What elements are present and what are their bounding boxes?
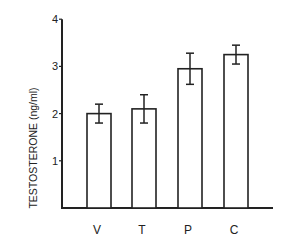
category-label-v: V (93, 223, 101, 237)
category-label-t: T (138, 223, 146, 237)
category-label-c: C (230, 223, 239, 237)
y-tick-label: 1 (52, 155, 58, 167)
bar-c (224, 55, 248, 208)
bar-chart: 1234 VTPC TESTOSTERONE (ng/ml) (0, 0, 286, 248)
y-axis-title: TESTOSTERONE (ng/ml) (27, 87, 39, 208)
bar-p (178, 69, 202, 208)
y-tick-label: 3 (52, 60, 58, 72)
category-label-p: P (184, 223, 192, 237)
bars (87, 45, 248, 208)
category-labels: VTPC (93, 223, 239, 237)
bar-v (87, 114, 111, 208)
y-tick-label: 4 (52, 13, 58, 25)
y-tick-label: 2 (52, 108, 58, 120)
y-axis: 1234 (52, 13, 62, 208)
